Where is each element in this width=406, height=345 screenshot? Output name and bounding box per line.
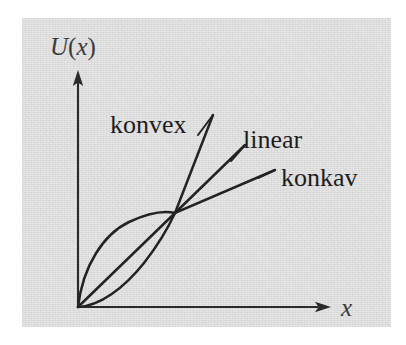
linear-curve — [78, 145, 245, 307]
linear-label: linear — [243, 125, 303, 154]
y-axis — [73, 70, 83, 307]
konvex-label: konvex — [110, 110, 187, 139]
convex-curve — [78, 115, 213, 307]
konkav-leader-line — [258, 170, 275, 178]
y-axis-label-open-paren: ( — [68, 33, 76, 61]
utility-function-diagram: U(x) x konvex linear konkav — [0, 0, 406, 345]
y-axis-label-U: U — [50, 33, 70, 60]
konkav-label: konkav — [281, 163, 358, 192]
x-axis-label: x — [340, 294, 352, 321]
figure-stage: U(x) x konvex linear konkav — [0, 0, 406, 345]
y-axis-label: U(x) — [50, 33, 96, 61]
x-axis — [78, 302, 331, 312]
y-axis-label-close-paren: ) — [88, 33, 96, 61]
y-axis-label-arg: x — [75, 33, 87, 60]
concave-curve — [78, 170, 275, 307]
